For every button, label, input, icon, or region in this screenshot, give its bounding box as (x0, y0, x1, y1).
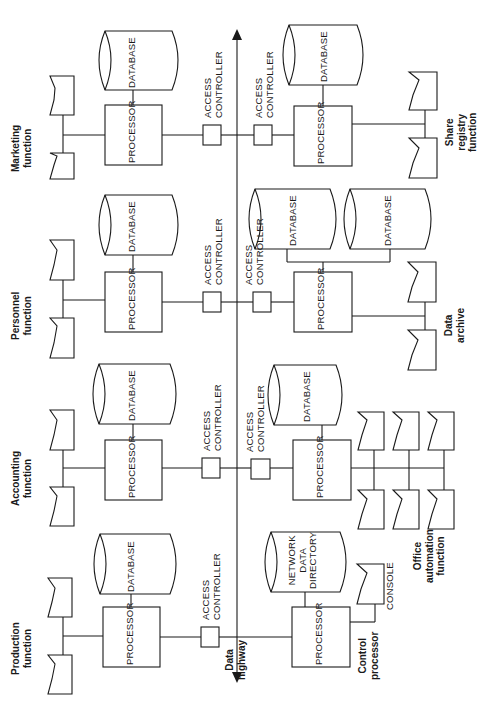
terminal-icon (428, 412, 454, 450)
terminal-icon (50, 240, 74, 280)
data-highway-label: Data highway (224, 640, 247, 680)
function-label-marketing: Marketing function (10, 125, 33, 172)
terminal-icon (50, 487, 74, 526)
terminal-icon (408, 330, 436, 370)
access-controller-label: ACCESS CONTROLLER (201, 553, 222, 620)
database-label: DATABASE (127, 370, 138, 421)
access-controller-box (203, 292, 221, 312)
function-label-production: Production function (10, 622, 33, 675)
data-archive-node (237, 189, 436, 370)
processor-label: PROCESSOR (127, 267, 138, 330)
terminal-icon (408, 262, 436, 302)
access-controller-box (201, 627, 219, 647)
terminal-icon (393, 490, 419, 529)
function-label-personnel: Personnel function (10, 292, 33, 340)
processor-label: PROCESSOR (316, 101, 327, 164)
database-label: DATABASE (383, 195, 394, 246)
terminal-icon (48, 578, 72, 617)
terminal-icon (50, 76, 74, 115)
data-highway (232, 29, 242, 683)
access-controller-label: ACCESS CONTROLLER (244, 218, 265, 285)
arrow-up-icon (232, 29, 242, 40)
terminal-icon (50, 318, 74, 358)
function-label-accounting: Accounting function (10, 451, 33, 506)
function-label-control-processor: Control processor (357, 632, 380, 680)
terminal-icon (428, 490, 454, 529)
database-label: DATABASE (127, 201, 138, 252)
function-label-share-registry: Share registry function (444, 113, 479, 152)
database-label: DATABASE (127, 37, 138, 88)
console-terminal-icon (357, 564, 384, 604)
terminal-icon (393, 412, 419, 450)
processor-label: PROCESSOR (127, 100, 138, 163)
office-automation-node (237, 365, 454, 529)
processor-label: PROCESSOR (125, 602, 136, 665)
access-controller-box (203, 125, 221, 145)
terminal-icon (358, 490, 384, 529)
diagram-lines (0, 0, 487, 708)
terminal-icon (50, 410, 74, 450)
network-architecture-diagram: Marketing function Personnel function Ac… (0, 0, 487, 708)
terminal-icon (409, 138, 437, 178)
access-controller-box (254, 125, 272, 145)
processor-label: PROCESSOR (127, 435, 138, 498)
terminal-icon (409, 72, 437, 110)
access-controller-label: ACCESS CONTROLLER (245, 385, 266, 452)
processor-label: PROCESSOR (314, 602, 325, 665)
access-controller-label: ACCESS CONTROLLER (203, 51, 224, 118)
database-label: DATABASE (288, 195, 299, 246)
database-label: DATABASE (302, 371, 313, 422)
function-label-office-automation: Office automation function (412, 529, 447, 583)
access-controller-label: ACCESS CONTROLLER (254, 51, 275, 118)
terminal-icon (48, 655, 72, 694)
database-label: DATABASE (319, 31, 330, 82)
terminal-icon (358, 412, 384, 450)
console-label: CONSOLE (385, 562, 396, 610)
access-controller-label: ACCESS CONTROLLER (203, 218, 224, 285)
processor-label: PROCESSOR (315, 435, 326, 498)
database-label: DATABASE (126, 541, 137, 592)
processor-label: PROCESSOR (316, 267, 327, 330)
function-label-data-archive: Data archive (443, 308, 466, 343)
access-controller-box (251, 459, 270, 479)
terminal-icon (50, 153, 74, 179)
access-controller-box (202, 458, 220, 478)
network-data-directory-label: NETWORK DATA DIRECTORY (287, 532, 319, 589)
access-controller-label: ACCESS CONTROLLER (202, 384, 223, 451)
access-controller-box (253, 292, 271, 312)
